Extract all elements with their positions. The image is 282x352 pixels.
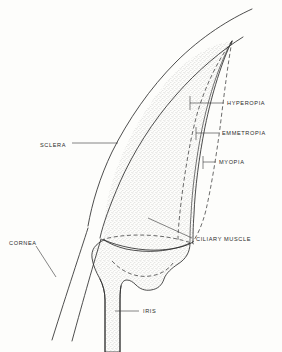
- iris-stalk-right-edge: [120, 286, 121, 352]
- stipple-fills: [92, 41, 232, 352]
- ciliary-body-fill: [92, 240, 190, 352]
- label-iris: IRIS: [143, 308, 156, 314]
- eye-accommodation-figure: SCLERA CORNEA IRIS HYPEROPIA EMMETROPIA …: [0, 0, 282, 352]
- iris-stalk-left-edge: [100, 279, 105, 352]
- leader-line-cornea: [36, 246, 56, 277]
- label-emmetropia: EMMETROPIA: [222, 130, 266, 136]
- diagram-canvas: SCLERA CORNEA IRIS HYPEROPIA EMMETROPIA …: [0, 0, 282, 352]
- label-sclera: SCLERA: [40, 142, 66, 148]
- label-cornea: CORNEA: [9, 240, 37, 246]
- label-hyperopia: HYPEROPIA: [227, 100, 265, 106]
- label-ciliary-muscle: CILIARY MUSCLE: [196, 236, 251, 242]
- cornea-outer-curve: [52, 228, 88, 340]
- cornea-inner-curve: [72, 239, 101, 341]
- label-myopia: MYOPIA: [219, 159, 244, 165]
